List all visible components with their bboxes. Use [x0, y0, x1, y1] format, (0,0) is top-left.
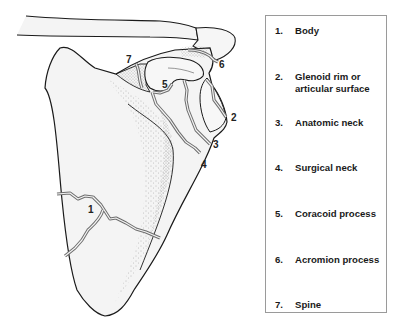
scapula-illustration: 1 2 3 4 5 6 7	[0, 0, 262, 332]
legend-label: Surgical neck	[295, 162, 387, 174]
callout-1: 1	[88, 204, 94, 215]
legend-number: 1.	[275, 25, 283, 37]
callout-2: 2	[231, 112, 237, 123]
legend-number: 7.	[275, 299, 283, 311]
callout-5: 5	[162, 79, 168, 90]
legend-number: 6.	[275, 254, 283, 266]
legend-label: Spine	[295, 299, 387, 311]
legend-number: 2.	[275, 71, 283, 83]
callout-7: 7	[126, 54, 132, 65]
callout-4: 4	[201, 159, 207, 170]
legend-label: Acromion process	[295, 254, 387, 266]
callout-6: 6	[219, 59, 225, 70]
legend-number: 4.	[275, 162, 283, 174]
legend-box: 1. Body 2. Glenoid rim or articular surf…	[265, 15, 387, 313]
callout-3: 3	[213, 139, 219, 150]
legend-number: 5.	[275, 208, 283, 220]
legend-label: Anatomic neck	[295, 117, 387, 129]
legend-number: 3.	[275, 117, 283, 129]
legend-label: Body	[295, 25, 387, 37]
legend-label: Glenoid rim or articular surface	[295, 71, 387, 95]
legend-label: Coracoid process	[295, 208, 387, 220]
